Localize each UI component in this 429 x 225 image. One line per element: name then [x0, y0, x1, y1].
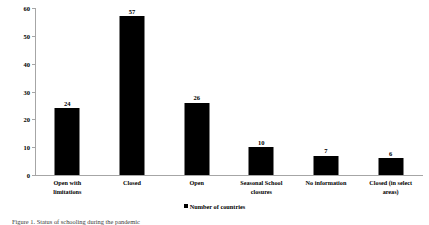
x-axis-category-label: Seasonal Schoolclosures — [229, 179, 294, 196]
bar-value-label: 24 — [64, 100, 71, 107]
bar-group: 7 — [294, 8, 359, 175]
bar-group: 26 — [164, 8, 229, 175]
bar-value-label: 10 — [258, 139, 265, 146]
x-axis-category-label: Closed (in selectareas) — [358, 179, 423, 196]
category-label-line: Open — [164, 179, 229, 188]
y-axis-tick-40: 40 — [8, 60, 30, 67]
figure-caption: Figure 1. Status of schooling during the… — [12, 218, 417, 225]
bar-group: 24 — [35, 8, 100, 175]
bar[interactable] — [378, 158, 403, 175]
y-axis-tick-60: 60 — [8, 5, 30, 12]
y-axis-tick-30: 30 — [8, 88, 30, 95]
category-label-line: Seasonal School — [229, 179, 294, 188]
bar[interactable] — [184, 103, 209, 175]
x-axis-category-label: Closed — [100, 179, 165, 188]
y-axis-tick-20: 20 — [8, 116, 30, 123]
bar-group: 6 — [358, 8, 423, 175]
x-axis-category-label: No information — [294, 179, 359, 188]
y-axis-tick-0: 0 — [8, 172, 30, 179]
category-label-line: closures — [229, 188, 294, 197]
bar[interactable] — [313, 156, 338, 175]
bar-value-label: 7 — [324, 147, 327, 154]
bars-layer: 2457261076 — [35, 8, 423, 176]
category-label-line: limitations — [35, 188, 100, 197]
legend-square-marker-icon — [184, 204, 188, 208]
plot-area: 0102030405060 2457261076 — [35, 8, 423, 176]
category-label-line: Open with — [35, 179, 100, 188]
category-label-line: areas) — [358, 188, 423, 197]
category-label-line: Closed (in select — [358, 179, 423, 188]
category-label-line: No information — [294, 179, 359, 188]
bar[interactable] — [55, 108, 80, 175]
bar-value-label: 57 — [129, 8, 136, 15]
x-axis-category-label: Open withlimitations — [35, 179, 100, 196]
y-axis-tick-10: 10 — [8, 144, 30, 151]
bar-value-label: 6 — [389, 150, 392, 157]
x-axis-category-label: Open — [164, 179, 229, 188]
bar[interactable] — [119, 16, 144, 175]
bar[interactable] — [249, 147, 274, 175]
legend-label: Number of countries — [190, 203, 246, 210]
chart-legend: Number of countries — [0, 202, 429, 211]
bar-chart-figure: 0102030405060 2457261076 Open withlimita… — [0, 0, 429, 225]
x-axis-category-labels: Open withlimitationsClosedOpenSeasonal S… — [35, 179, 423, 201]
category-label-line: Closed — [100, 179, 165, 188]
bar-group: 57 — [100, 8, 165, 175]
bar-group: 10 — [229, 8, 294, 175]
y-axis-tick-50: 50 — [8, 32, 30, 39]
bar-value-label: 26 — [193, 94, 200, 101]
